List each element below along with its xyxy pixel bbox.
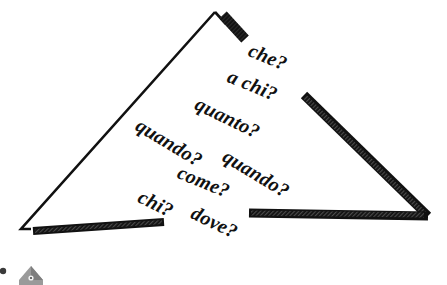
house-icon [19,266,43,285]
triangle-right-edge-hatch [305,97,426,215]
triangle-bottom-right-edge-hatch [251,213,424,215]
ink-mark [0,268,6,274]
apex-thick-stub-shadow [223,15,245,39]
triangle-left-edge [21,12,215,229]
figure-canvas: che?a chi?quanto?quando?quando?come?chi?… [0,0,447,285]
triangle-figure [0,0,447,285]
